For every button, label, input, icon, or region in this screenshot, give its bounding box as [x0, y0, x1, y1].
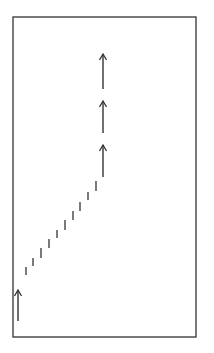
- arrow-up-icon: [100, 54, 107, 89]
- arrow-up-icon: [100, 101, 107, 133]
- arrow-up-icon: [15, 290, 22, 321]
- frame-border: [13, 17, 196, 337]
- dash-series: [26, 181, 96, 275]
- diagram-canvas: [0, 0, 214, 353]
- frame: [13, 17, 196, 337]
- arrow-up-icon: [100, 145, 107, 177]
- arrow-series: [15, 54, 107, 321]
